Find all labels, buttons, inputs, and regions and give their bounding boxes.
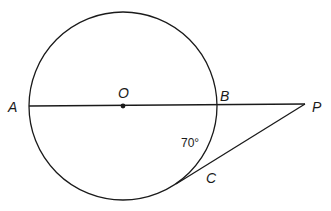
label-c: C [206, 170, 217, 186]
label-o: O [118, 85, 129, 101]
center-point-o [121, 104, 126, 109]
label-p: P [312, 99, 322, 115]
geometry-diagram: A O B P 70° C [0, 0, 331, 211]
line-ap [29, 104, 305, 106]
label-a: A [7, 99, 17, 115]
angle-label-70: 70° [181, 136, 199, 150]
label-b: B [220, 88, 229, 104]
